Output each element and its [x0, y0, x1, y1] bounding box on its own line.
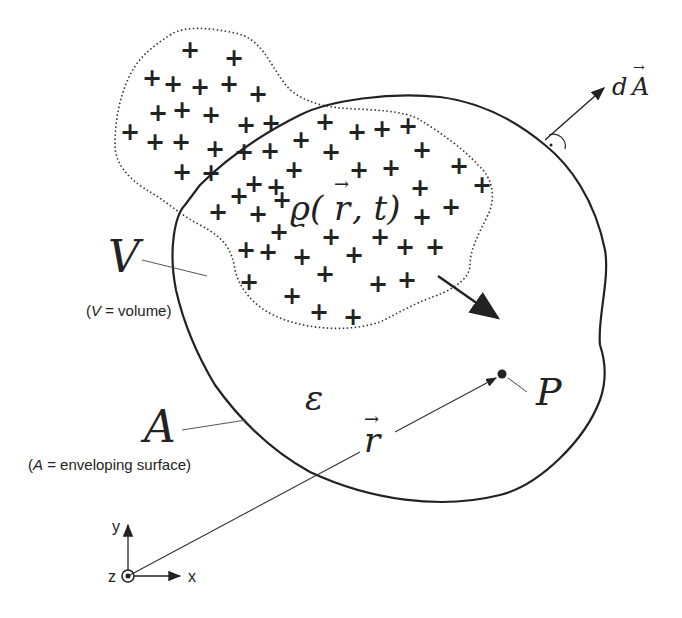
- svg-text:(A = enveloping surface): (A = enveloping surface): [28, 456, 191, 473]
- svg-text:A: A: [140, 401, 176, 452]
- svg-text:→: →: [364, 408, 379, 429]
- svg-text:r: r: [334, 188, 352, 228]
- svg-text:x: x: [188, 568, 196, 585]
- svg-text:+: +: [172, 96, 192, 124]
- svg-text:z: z: [108, 568, 116, 585]
- svg-text:+: +: [239, 268, 259, 296]
- svg-text:+: +: [292, 243, 312, 271]
- svg-text:d: d: [612, 73, 627, 101]
- coordinate-axes: y z x: [108, 518, 196, 585]
- svg-text:P: P: [535, 370, 563, 414]
- svg-text:→: →: [334, 173, 349, 194]
- svg-text:+: +: [180, 36, 200, 64]
- svg-text:+: +: [368, 270, 388, 298]
- svg-text:+: +: [425, 233, 445, 261]
- svg-text:+: +: [291, 126, 311, 154]
- svg-text:+: +: [315, 260, 335, 288]
- charge-volume-diagram: + + + + + + + + + + + + + + + + + + + + …: [0, 0, 682, 618]
- svg-text:+: +: [381, 154, 401, 182]
- svg-text:+: +: [321, 138, 341, 166]
- svg-text:+: +: [449, 152, 469, 180]
- svg-text:+: +: [171, 128, 191, 156]
- svg-text:+: +: [309, 298, 329, 326]
- svg-text:+: +: [397, 266, 417, 294]
- svg-text:+: +: [349, 156, 369, 184]
- svg-text:+: +: [172, 158, 192, 186]
- flow-arrow: [438, 276, 498, 318]
- svg-text:+: +: [315, 108, 335, 136]
- svg-text:+: +: [258, 238, 278, 266]
- svg-text:+: +: [120, 118, 140, 146]
- svg-text:+: +: [201, 101, 221, 129]
- svg-text:+: +: [441, 193, 461, 221]
- svg-text:+: +: [190, 73, 210, 101]
- svg-text:+: +: [248, 80, 268, 108]
- svg-text:V: V: [108, 231, 144, 282]
- svg-text:+: +: [229, 182, 249, 210]
- svg-text:+: +: [410, 174, 430, 202]
- svg-text:, t): , t): [352, 188, 401, 228]
- svg-text:+: +: [372, 115, 392, 143]
- svg-text:ϱ(: ϱ(: [290, 188, 324, 228]
- svg-text:A: A: [630, 73, 649, 101]
- svg-text:+: +: [248, 200, 268, 228]
- point-p: P: [498, 370, 564, 415]
- svg-text:+: +: [412, 203, 432, 231]
- svg-text:+: +: [208, 198, 228, 226]
- svg-text:+: +: [236, 111, 256, 139]
- svg-text:+: +: [347, 118, 367, 146]
- svg-text:→: →: [633, 59, 645, 75]
- svg-text:+: +: [344, 241, 364, 269]
- svg-text:y: y: [112, 518, 120, 535]
- svg-text:+: +: [412, 136, 432, 164]
- svg-text:+: +: [234, 138, 254, 166]
- svg-text:+: +: [472, 171, 492, 199]
- svg-text:+: +: [236, 236, 256, 264]
- svg-text:+: +: [261, 109, 281, 137]
- svg-text:+: +: [284, 156, 304, 184]
- svg-text:+: +: [163, 70, 183, 98]
- svg-text:+: +: [142, 64, 162, 92]
- svg-text:+: +: [145, 128, 165, 156]
- svg-text:+: +: [343, 303, 363, 331]
- svg-text:+: +: [219, 70, 239, 98]
- svg-text:+: +: [224, 44, 244, 72]
- svg-text:+: +: [260, 137, 280, 165]
- svg-text:+: +: [282, 282, 302, 310]
- permittivity-label: ε: [305, 378, 323, 418]
- svg-text:+: +: [148, 99, 168, 127]
- svg-text:(V = volume): (V = volume): [86, 302, 171, 319]
- volume-label: V (V = volume): [86, 231, 207, 319]
- area-element-normal: d A →: [545, 59, 649, 149]
- svg-text:+: +: [395, 233, 415, 261]
- surface-label: A (A = enveloping surface): [28, 401, 246, 473]
- svg-text:+: +: [201, 159, 221, 187]
